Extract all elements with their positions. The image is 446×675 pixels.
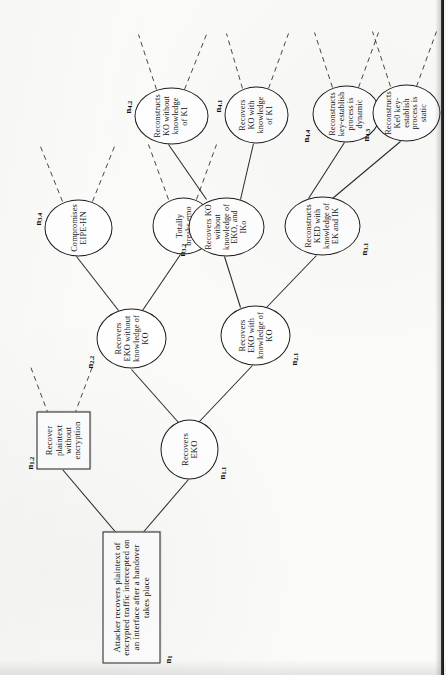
edge-n3-2-to-n4-1 [240,143,253,199]
node-n2-1[interactable]: Recovers EKO with knowledge of KO [220,305,290,365]
node-n1-1-tag: n1.1 [216,466,226,479]
node-n3-1[interactable]: Reconstructs KED with knowledge of EK an… [284,196,360,255]
edge-n3-1-to-n4-4 [308,142,344,198]
node-n1-1[interactable]: Recovers EKO [160,419,218,479]
stub-n3-3-a [148,144,168,199]
stub-n3-4-b [92,146,114,201]
page-bottom-fade [0,659,446,675]
stub-n4-3-b [416,31,436,86]
stub-n4-2-a [138,34,156,89]
stub-n3-3-b [196,144,216,199]
stub-n4-4-a [314,32,332,87]
node-n4-4-label: Reconstructs key-establish process is dy… [328,86,363,141]
node-n2-2[interactable]: Recovers EKO without knowledge of KO [96,308,166,368]
node-n1-2-label: Recover plaintext without encryption [44,412,81,468]
node-n1-label: Attacker recovers plaintext of encrypted… [112,532,151,662]
edge-root-to-n1-2 [62,469,118,535]
attack-tree-canvas: Attacker recovers plaintext of encrypted… [0,0,446,675]
edge-n2-1-to-n3-1 [266,255,316,307]
edge-n2-1-to-n3-2 [224,256,240,307]
node-n1-2-tag: n1.2 [24,456,34,469]
node-n1-root[interactable]: Attacker recovers plaintext of encrypted… [102,531,160,663]
edge-n3-1-to-n4-3 [332,141,400,198]
edge-root-to-n1-1 [140,479,188,535]
stub-n4-2-b [184,34,206,89]
node-n3-1-label: Reconstructs KED with knowledge of EK an… [304,197,339,254]
stub-n1-2-b [74,366,92,414]
node-n4-2-tag: n4.2 [122,100,132,113]
node-n3-2-tag: n3.2 [176,243,186,256]
edge-n2-2-to-n3-4 [76,256,118,310]
stub-n4-3-a [372,31,390,86]
node-n4-4-tag: n4.4 [300,129,310,142]
edge-n3-2-to-n4-2 [168,144,206,199]
edge-n1-1-to-n2-1 [198,365,252,422]
scanned-page: Attacker recovers plaintext of encrypted… [0,0,446,675]
edge-n2-2-to-n3-3 [142,254,180,310]
node-n2-1-tag: n2.1 [288,352,298,365]
stub-n4-1-a [226,33,242,88]
node-n4-3[interactable]: Reconstructs Ke0 key-establish process i… [372,84,440,141]
node-n3-2-shape[interactable]: Recovers KO without knowledge of EKO, an… [188,197,264,256]
node-n1-1-label: Recovers EKO [180,420,199,478]
node-n4-3-tag: n4.3 [360,128,370,141]
node-n3-2-label: Recovers KO without knowledge of EKO, an… [204,198,248,255]
node-n3-4-label: Compromises EIPE-HN [69,199,87,257]
node-n1-2[interactable]: Recover plaintext without encryption [36,411,90,469]
stub-n1-2-a [30,366,48,414]
node-n2-1-label: Recovers EKO with knowledge of KO [237,306,273,364]
edge-n1-1-to-n2-2 [131,369,178,422]
node-n4-1-label: Recovers KO with knowledge of K1 [238,87,273,142]
node-n4-1-tag: n4.1 [212,99,222,112]
node-n4-2[interactable]: Reconstructs KO without knowledge of K1 [134,87,208,144]
page-gutter-edge [441,0,444,675]
node-n2-2-tag: n2.2 [84,355,94,368]
stub-n3-4-a [40,146,62,201]
node-n4-2-label: Reconstructs KO without knowledge of K1 [153,88,188,143]
node-n2-2-label: Recovers EKO without knowledge of KO [113,309,149,367]
node-n3-1-tag: n3.1 [358,242,368,255]
stub-n4-1-b [268,33,288,88]
node-n3-4-tag: n3.4 [32,212,42,225]
node-n4-1[interactable]: Recovers KO with knowledge of K1 [224,86,288,143]
node-n4-3-label: Reconstructs Ke0 key-establish process i… [384,85,428,140]
node-n3-4[interactable]: Compromises EIPE-HN [44,199,112,256]
